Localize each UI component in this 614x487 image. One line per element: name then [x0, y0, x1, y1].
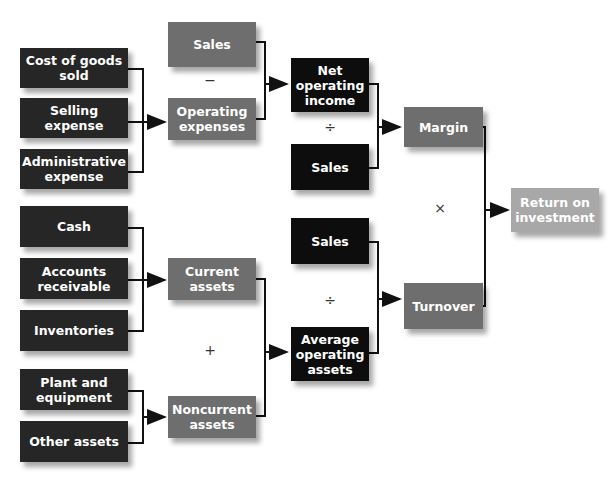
node-noncurrent-assets: Noncurrent assets: [168, 396, 256, 438]
node-label: Sales: [193, 37, 231, 52]
node-sales-turnover: Sales: [291, 218, 369, 264]
node-label: Inventories: [34, 323, 114, 338]
node-cost-of-goods-sold: Cost of goods sold: [20, 48, 128, 88]
node-label: Administrative expense: [22, 154, 126, 184]
node-other-assets: Other assets: [20, 421, 128, 462]
plus-operator: +: [200, 342, 220, 358]
node-sales-margin: Sales: [291, 144, 369, 190]
node-label: Net operating income: [295, 63, 365, 108]
node-label: Cash: [57, 219, 91, 234]
node-operating-expenses: Operating expenses: [168, 98, 256, 140]
node-label: Cost of goods sold: [24, 53, 124, 83]
node-turnover: Turnover: [404, 283, 483, 329]
node-label: Turnover: [412, 299, 475, 314]
node-label: Operating expenses: [172, 104, 252, 134]
multiply-operator: ×: [430, 200, 450, 216]
node-sales-top: Sales: [168, 22, 256, 67]
minus-operator: −: [200, 72, 220, 88]
node-label: Noncurrent assets: [172, 402, 252, 432]
node-label: Plant and equipment: [24, 375, 124, 405]
node-plant-and-equipment: Plant and equipment: [20, 369, 128, 410]
node-average-operating-assets: Average operating assets: [291, 327, 369, 381]
node-net-operating-income: Net operating income: [291, 58, 369, 112]
node-selling-expense: Selling expense: [20, 98, 128, 138]
node-label: Accounts receivable: [24, 264, 124, 294]
node-label: Selling expense: [24, 103, 124, 133]
node-label: Margin: [419, 120, 468, 135]
node-cash: Cash: [20, 206, 128, 247]
node-inventories: Inventories: [20, 310, 128, 351]
node-administrative-expense: Administrative expense: [20, 149, 128, 189]
node-accounts-receivable: Accounts receivable: [20, 258, 128, 299]
node-margin: Margin: [404, 107, 483, 147]
node-label: Average operating assets: [295, 332, 365, 377]
node-label: Current assets: [172, 264, 252, 294]
node-label: Return on investment: [515, 195, 595, 225]
node-current-assets: Current assets: [168, 258, 256, 300]
divide-operator-margin: ÷: [320, 119, 340, 135]
divide-operator-turnover: ÷: [320, 292, 340, 308]
node-label: Other assets: [29, 434, 119, 449]
node-return-on-investment: Return on investment: [511, 188, 599, 232]
node-label: Sales: [311, 234, 349, 249]
node-label: Sales: [311, 160, 349, 175]
